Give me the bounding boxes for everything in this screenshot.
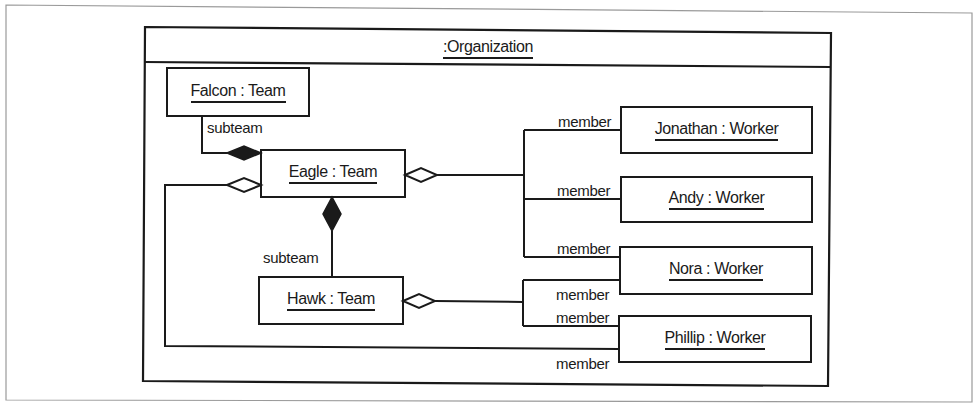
- diagram-canvas: :Organization Falcon : Team Eagle : Team…: [0, 0, 976, 412]
- object-andy: Andy : Worker: [621, 177, 812, 222]
- frame-title: :Organization: [145, 33, 831, 63]
- role-label-member: member: [556, 355, 609, 373]
- object-nora: Nora : Worker: [620, 247, 812, 294]
- object-label: Jonathan : Worker: [655, 120, 779, 141]
- object-label: Andy : Worker: [669, 189, 765, 210]
- frame-title-label: :Organization: [443, 38, 533, 59]
- role-label-subteam: subteam: [263, 249, 318, 267]
- aggregation-diamond-icon: [405, 168, 437, 182]
- role-label-subteam: subteam: [207, 119, 262, 137]
- role-label-member: member: [556, 286, 609, 304]
- aggregation-diamond-icon: [403, 294, 435, 308]
- role-label-member: member: [558, 113, 611, 131]
- hawk-member-link: [435, 301, 523, 302]
- composition-diamond-icon: [323, 197, 341, 231]
- object-eagle: Eagle : Team: [261, 150, 405, 197]
- aggregation-diamond-icon: [227, 178, 261, 192]
- object-label: Phillip : Worker: [665, 329, 766, 350]
- role-label-member: member: [557, 182, 610, 200]
- composition-diamond-icon: [227, 146, 261, 160]
- object-label: Hawk : Team: [287, 290, 375, 311]
- object-falcon: Falcon : Team: [167, 68, 309, 116]
- role-label-member: member: [556, 309, 609, 327]
- object-hawk: Hawk : Team: [259, 277, 403, 324]
- object-jonathan: Jonathan : Worker: [621, 107, 812, 153]
- object-label: Eagle : Team: [289, 163, 377, 184]
- object-label: Nora : Worker: [669, 260, 763, 281]
- object-phillip: Phillip : Worker: [619, 316, 811, 362]
- role-label-member: member: [557, 240, 610, 258]
- object-label: Falcon : Team: [191, 82, 286, 103]
